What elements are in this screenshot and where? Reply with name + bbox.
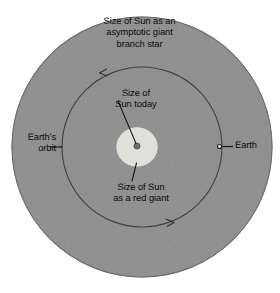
label-earths-orbit: Earth's orbit: [2, 132, 56, 155]
sun-evolution-diagram: Size of Sun as an asymptotic giant branc…: [0, 0, 280, 293]
label-agb-star: Size of Sun as an asymptotic giant branc…: [62, 16, 217, 50]
label-earth: Earth: [235, 140, 279, 151]
sun-today-dot: [134, 143, 140, 149]
label-red-giant: Size of Sun as a red giant: [92, 182, 190, 205]
label-sun-today: Size of Sun today: [96, 88, 176, 111]
